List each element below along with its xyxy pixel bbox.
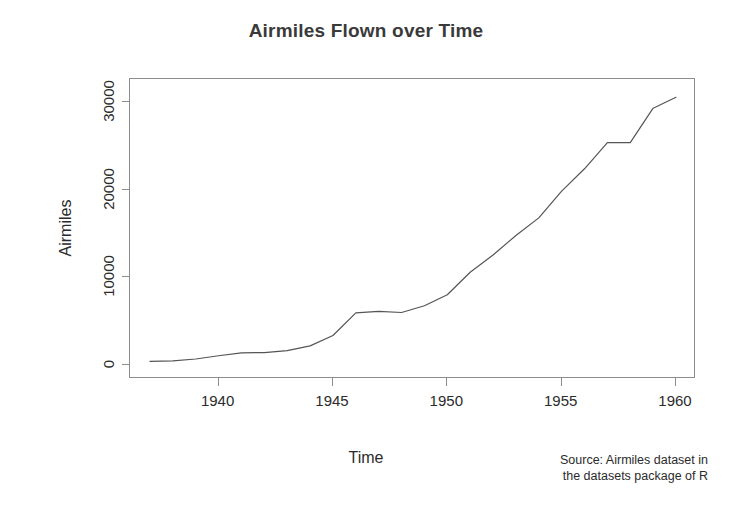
source-note: Source: Airmiles dataset in the datasets… [560, 452, 708, 484]
y-tick-label: 0 [100, 360, 117, 368]
x-tick-label: 1960 [658, 392, 691, 409]
x-tick-mark [675, 378, 676, 386]
line-series-svg [130, 79, 696, 379]
y-tick-mark [122, 364, 129, 365]
source-note-line-1: Source: Airmiles dataset in [560, 452, 708, 468]
y-tick-label: 10000 [100, 255, 117, 297]
y-axis-title-text: Airmiles [57, 200, 75, 257]
y-tick-mark [122, 189, 129, 190]
x-tick-mark [561, 378, 562, 386]
source-note-line-2: the datasets package of R [560, 468, 708, 484]
y-tick-label: 30000 [100, 80, 117, 122]
y-tick-mark [122, 101, 129, 102]
airmiles-line [150, 97, 676, 361]
x-tick-mark [218, 378, 219, 386]
chart-figure: Airmiles Flown over Time Airmiles 010000… [0, 0, 732, 517]
x-tick-label: 1940 [201, 392, 234, 409]
y-tick-mark [122, 276, 129, 277]
x-tick-label: 1950 [430, 392, 463, 409]
y-tick-label: 20000 [100, 168, 117, 210]
x-tick-mark [332, 378, 333, 386]
x-tick-label: 1945 [315, 392, 348, 409]
x-tick-label: 1955 [544, 392, 577, 409]
x-tick-mark [446, 378, 447, 386]
plot-area [129, 78, 695, 378]
chart-title: Airmiles Flown over Time [0, 20, 732, 42]
